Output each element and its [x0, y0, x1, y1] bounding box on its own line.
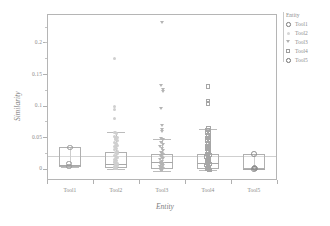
y-tick-label: 0: [12, 165, 42, 171]
legend-label: Tool2: [295, 30, 308, 36]
x-tick-mark: [185, 180, 186, 184]
chart-root: Similarity Entity 00.050.10.150.2 Tool1T…: [0, 0, 330, 226]
x-tick-label-tool1: Tool1: [50, 187, 90, 193]
data-point-dot: [113, 167, 116, 170]
legend-item-tool5[interactable]: Tool5: [285, 56, 329, 65]
x-tick-label-tool4: Tool4: [188, 187, 228, 193]
data-point-triangle-down: [159, 107, 163, 110]
data-point-circle-bold: [251, 166, 257, 172]
x-tick-mark: [139, 180, 140, 184]
data-point-circle: [67, 145, 72, 150]
legend-item-tool1[interactable]: Tool1: [285, 20, 329, 29]
legend-label: Tool4: [295, 48, 308, 54]
legend-label: Tool5: [295, 57, 308, 63]
x-tick-label-tool2: Tool2: [96, 187, 136, 193]
data-point-triangle-down: [160, 124, 164, 127]
legend-label: Tool1: [295, 21, 308, 27]
data-point-triangle-down: [159, 169, 163, 172]
legend-label: Tool3: [295, 39, 308, 45]
y-tick-minor: [45, 42, 48, 43]
x-tick-mark: [93, 180, 94, 184]
data-point-circle-bold: [251, 151, 257, 157]
x-tick-mark: [47, 180, 48, 184]
legend-item-tool4[interactable]: Tool4: [285, 47, 329, 56]
data-point-square: [206, 84, 210, 88]
legend-item-tool3[interactable]: Tool3: [285, 38, 329, 47]
legend-divider: [283, 12, 284, 62]
legend-marker-circle-icon: [286, 22, 291, 27]
y-tick-label: 0.1: [12, 102, 42, 108]
data-point-triangle-down: [160, 130, 164, 133]
legend-marker-square-icon: [286, 49, 290, 53]
y-tick-mark: [43, 169, 47, 170]
legend-marker-circle-bold-icon: [286, 58, 291, 63]
y-tick-minor: [45, 58, 48, 59]
y-tick-label: 0.05: [12, 134, 42, 140]
x-tick-label-tool3: Tool3: [142, 187, 182, 193]
legend-marker-dot-icon: [287, 32, 290, 35]
y-tick-minor: [45, 90, 48, 91]
y-tick-minor: [45, 153, 48, 154]
x-axis-label: Entity: [0, 202, 330, 211]
legend: Entity Tool1Tool2Tool3Tool4Tool5: [283, 12, 329, 68]
y-tick-label: 0.15: [12, 71, 42, 77]
y-tick-minor: [45, 121, 48, 122]
y-tick-mark: [43, 137, 47, 138]
data-point-triangle-down: [161, 90, 165, 93]
x-tick-label-tool5: Tool5: [234, 187, 274, 193]
y-tick-minor: [45, 27, 48, 28]
data-point-triangle-down: [160, 21, 164, 24]
y-tick-label: 0.2: [12, 39, 42, 45]
data-point-dot: [113, 57, 116, 60]
y-tick-mark: [43, 106, 47, 107]
x-tick-mark: [277, 180, 278, 184]
legend-title: Entity: [286, 12, 299, 18]
data-point-square: [206, 101, 210, 105]
x-tick-mark: [231, 180, 232, 184]
legend-marker-triangle-down-icon: [286, 40, 290, 43]
legend-item-tool2[interactable]: Tool2: [285, 29, 329, 38]
data-point-square: [207, 168, 211, 172]
y-tick-mark: [43, 74, 47, 75]
data-point-circle: [66, 164, 71, 169]
